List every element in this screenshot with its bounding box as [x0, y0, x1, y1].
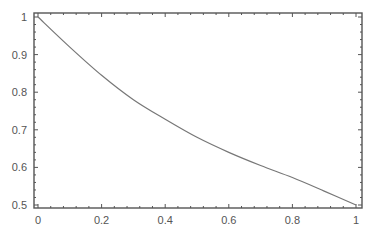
y-tick-label: 0.9: [12, 49, 27, 61]
axis-ticks: [34, 13, 362, 208]
y-axis-tick-labels: 0.50.60.70.80.91: [12, 11, 27, 211]
x-tick-label: 0.4: [158, 214, 173, 226]
y-tick-label: 1: [21, 11, 27, 23]
y-tick-label: 0.6: [12, 161, 27, 173]
y-tick-label: 0.8: [12, 86, 27, 98]
x-tick-label: 0: [35, 214, 41, 226]
data-series-curve: [38, 17, 356, 205]
plot-border: [34, 13, 362, 208]
x-axis-tick-labels: 00.20.40.60.81: [35, 214, 359, 226]
x-tick-label: 0.2: [94, 214, 109, 226]
y-tick-label: 0.7: [12, 124, 27, 136]
x-tick-label: 1: [353, 214, 359, 226]
line-chart: 00.20.40.60.81 0.50.60.70.80.91: [0, 0, 373, 234]
plot-frame: [34, 13, 362, 208]
x-tick-label: 0.6: [221, 214, 236, 226]
y-tick-label: 0.5: [12, 199, 27, 211]
x-tick-label: 0.8: [285, 214, 300, 226]
